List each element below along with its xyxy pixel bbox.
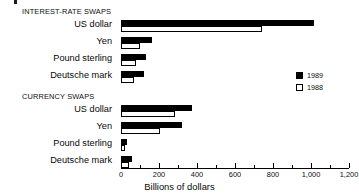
category-label: US dollar — [0, 104, 112, 114]
legend-label-1989: 1989 — [307, 72, 323, 79]
x-tick-minor — [292, 165, 293, 168]
category-label: Deutsche mark — [0, 155, 112, 165]
x-tick-label: 0 — [119, 170, 123, 179]
category-label: Deutsche mark — [0, 70, 112, 80]
group-title-currency-swaps: CURRENCY SWAPS — [22, 92, 94, 101]
x-tick-major — [311, 163, 312, 168]
category-label: US dollar — [0, 19, 112, 29]
chart-container: INTEREST-RATE SWAPS CURRENCY SWAPS 02004… — [0, 0, 359, 194]
legend-swatch-1988 — [296, 84, 303, 91]
x-tick-major — [235, 163, 236, 168]
legend-item-1988: 1988 — [296, 82, 323, 92]
x-tick-label: 1,000 — [302, 170, 321, 179]
bar-1988 — [121, 111, 175, 117]
x-tick-label: 600 — [229, 170, 241, 179]
group-title-interest-rate-swaps: INTEREST-RATE SWAPS — [22, 7, 111, 16]
x-tick-label: 400 — [191, 170, 203, 179]
legend: 1989 1988 — [296, 70, 323, 94]
x-tick-major — [197, 163, 198, 168]
x-tick-label: 1,200 — [340, 170, 359, 179]
category-label: Pound sterling — [0, 53, 112, 63]
legend-item-1989: 1989 — [296, 70, 323, 80]
x-tick-label: 200 — [153, 170, 165, 179]
bar-1988 — [121, 128, 160, 134]
x-tick-minor — [178, 165, 179, 168]
x-tick-major — [159, 163, 160, 168]
category-label: Pound sterling — [0, 138, 112, 148]
x-tick-minor — [330, 165, 331, 168]
category-label: Yen — [0, 121, 112, 131]
crop-artifact — [14, 0, 17, 4]
x-tick-label: 800 — [267, 170, 279, 179]
x-axis-title: Billions of dollars — [0, 181, 359, 192]
x-axis-line — [121, 168, 349, 169]
bar-1988 — [121, 43, 140, 49]
x-tick-major — [349, 163, 350, 168]
bar-1988 — [121, 26, 262, 32]
legend-label-1988: 1988 — [307, 84, 323, 91]
legend-swatch-1989 — [296, 72, 303, 79]
x-tick-major — [273, 163, 274, 168]
bar-1988 — [121, 145, 125, 151]
category-label: Yen — [0, 36, 112, 46]
x-tick-minor — [216, 165, 217, 168]
x-tick-major — [121, 163, 122, 168]
x-tick-minor — [254, 165, 255, 168]
bar-1988 — [121, 77, 134, 83]
x-tick-minor — [140, 165, 141, 168]
bar-1988 — [121, 60, 136, 66]
